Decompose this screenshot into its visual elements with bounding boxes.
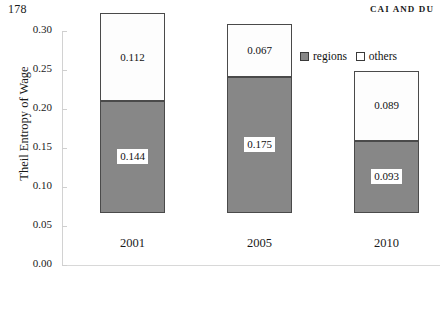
page-number: 178 xyxy=(8,2,27,17)
bar-stack: 0.089 0.093 xyxy=(354,0,419,213)
bar-stack: 0.067 0.175 xyxy=(227,0,292,213)
bar-value-label-others: 0.067 xyxy=(247,45,272,56)
plot-area: 0.112 0.144 2001 0.067 0.175 2005 xyxy=(62,31,440,265)
bar-value-label-others: 0.089 xyxy=(374,100,399,111)
bar-value-label-others: 0.112 xyxy=(120,52,144,63)
x-tick-label-2001: 2001 xyxy=(70,236,195,251)
x-tick-label-2005: 2005 xyxy=(197,236,322,251)
y-tick-mark xyxy=(62,265,67,266)
y-tick-label: 0.25 xyxy=(33,62,52,74)
y-tick-label: 0.20 xyxy=(33,101,52,113)
bar-stack: 0.112 0.144 xyxy=(100,0,165,213)
bar-group-2001[interactable]: 0.112 0.144 2001 xyxy=(100,0,165,265)
bar-segment-others[interactable]: 0.089 xyxy=(354,71,419,140)
bar-segment-others[interactable]: 0.112 xyxy=(100,13,165,100)
x-tick-label-2010: 2010 xyxy=(324,236,444,251)
bar-segment-regions[interactable]: 0.144 xyxy=(100,101,165,213)
x-axis-line xyxy=(62,265,440,266)
bar-segment-others[interactable]: 0.067 xyxy=(227,24,292,76)
y-axis-title: Theil Entropy of Wage xyxy=(17,24,32,224)
bar-group-2010[interactable]: 0.089 0.093 2010 xyxy=(354,0,419,265)
y-tick-label: 0.00 xyxy=(33,257,52,269)
y-tick-label: 0.05 xyxy=(33,218,52,230)
bar-value-label-regions: 0.144 xyxy=(117,149,148,164)
bar-value-label-regions: 0.093 xyxy=(371,169,402,184)
bar-segment-regions[interactable]: 0.093 xyxy=(354,141,419,214)
bar-group-2005[interactable]: 0.067 0.175 2005 xyxy=(227,0,292,265)
figure-stacked-bar-chart: Theil Entropy of Wage 0.30 0.25 0.20 0.1… xyxy=(0,20,444,317)
y-tick-label: 0.30 xyxy=(33,23,52,35)
bar-segment-regions[interactable]: 0.175 xyxy=(227,77,292,214)
bar-value-label-regions: 0.175 xyxy=(244,137,275,152)
y-tick-label: 0.10 xyxy=(33,179,52,191)
y-tick-label: 0.15 xyxy=(33,140,52,152)
